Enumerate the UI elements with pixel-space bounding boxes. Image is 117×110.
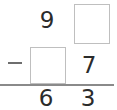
minus-operator [8,62,22,64]
equals-rule-line [0,84,114,86]
subtraction-problem: 9 7 6 3 [0,0,117,110]
difference-tens-digit: 6 [36,87,56,110]
minuend-ones-answer-box[interactable] [74,4,110,44]
difference-ones-digit: 3 [78,87,98,110]
subtrahend-ones-digit: 7 [79,54,99,77]
subtrahend-tens-answer-box[interactable] [30,47,66,84]
minuend-tens-digit: 9 [37,9,57,32]
